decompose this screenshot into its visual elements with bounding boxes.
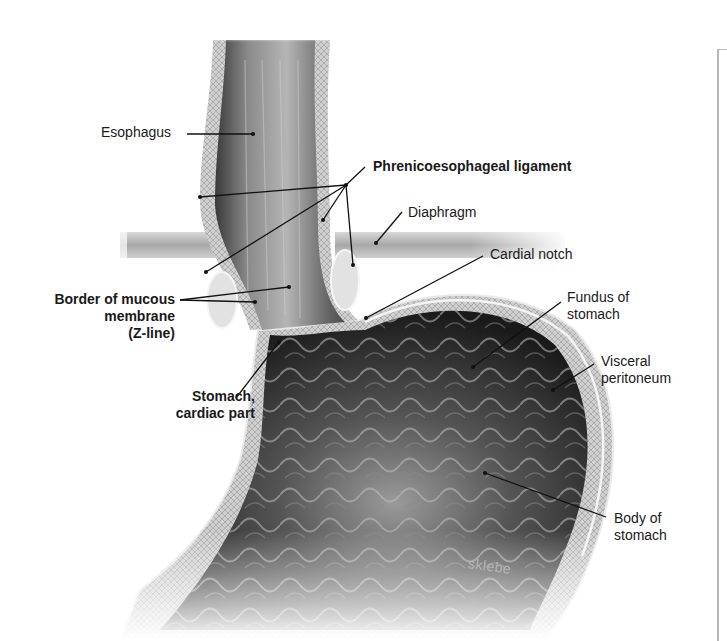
leader-dot [351,263,355,267]
label-stomach-cardiac-part: Stomach, cardiac part [140,388,255,422]
label-line: Stomach, [140,388,255,405]
leader-dot [253,300,257,304]
label-line: (Z-line) [10,325,175,342]
label-line: stomach [567,306,629,323]
label-line: Fundus of [567,289,629,306]
label-cardial-notch: Cardial notch [490,246,573,263]
leader-dot [471,365,475,369]
label-line: Visceral [601,353,671,370]
leader-dot [483,471,487,475]
label-body-of-stomach: Body of stomach [614,510,667,544]
leader-dot [364,316,368,320]
leader-dot [251,132,255,136]
label-line: stomach [614,527,667,544]
label-phrenicoesophageal-ligament: Phrenicoesophageal ligament [373,158,571,175]
label-border-of-mucous-membrane: Border of mucous membrane (Z-line) [10,291,175,342]
leader-dot [321,218,325,222]
leader-dot [204,270,208,274]
label-diaphragm: Diaphragm [408,204,476,221]
leader-dot [374,241,378,245]
stomach [100,295,660,641]
leader-line-phrenicoesophageal-ligament [346,167,365,185]
leader-dot [551,388,555,392]
label-line: peritoneum [601,370,671,387]
label-line: Border of mucous [10,291,175,308]
esophagus [195,35,359,330]
label-line: membrane [10,308,175,325]
label-line: cardiac part [140,405,255,422]
label-esophagus: Esophagus [101,124,171,141]
label-visceral-peritoneum: Visceral peritoneum [601,353,671,387]
anatomy-figure: Esophagus Phrenicoesophageal ligament Di… [0,0,727,641]
leader-dot [287,285,291,289]
label-line: Body of [614,510,667,527]
frame-border-right [717,49,719,641]
leader-dot [277,340,281,344]
leader-dot [198,195,202,199]
frame-border-top [717,49,727,50]
label-fundus-of-stomach: Fundus of stomach [567,289,629,323]
